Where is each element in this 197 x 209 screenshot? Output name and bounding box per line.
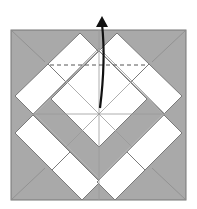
origami-diagram xyxy=(0,0,197,209)
